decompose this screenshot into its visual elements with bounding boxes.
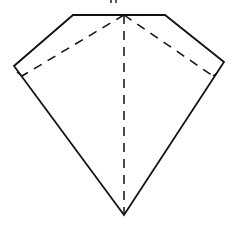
kite-outline xyxy=(14,15,224,215)
fold-lines xyxy=(17,15,217,213)
kite-diagram xyxy=(0,0,236,226)
fold-line-right xyxy=(124,15,213,76)
top-label-fragment xyxy=(111,0,116,3)
